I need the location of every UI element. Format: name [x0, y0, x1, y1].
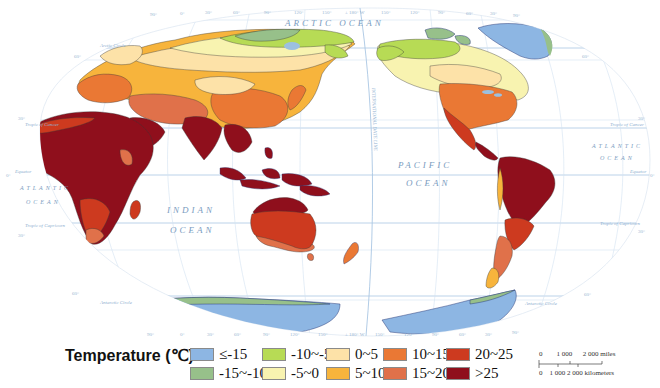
svg-text:150°: 150°: [318, 332, 328, 337]
legend-swatch: [190, 348, 214, 361]
legend-item-0-5: 0~5: [326, 346, 378, 362]
legend-label: 15~20: [412, 365, 450, 382]
legend-label: 20~25: [475, 346, 513, 363]
svg-text:Arctic Circle: Arctic Circle: [99, 43, 126, 48]
svg-text:60°: 60°: [582, 54, 589, 59]
scale-km-label: 0 1 000 2 000 kilometers: [539, 369, 614, 377]
legend-swatch: [326, 367, 350, 380]
svg-text:120°: 120°: [410, 10, 420, 15]
svg-text:120°: 120°: [290, 332, 300, 337]
svg-text:60°: 60°: [72, 291, 79, 296]
svg-text:ATLANTIC: ATLANTIC: [591, 143, 643, 149]
legend-swatch: [326, 348, 350, 361]
legend-swatch: [446, 367, 470, 380]
legend-item-20-25: 20~25: [446, 346, 513, 362]
svg-text:150°: 150°: [381, 10, 391, 15]
legend-item-minus5-0: -5~0: [262, 365, 319, 381]
svg-text:30°: 30°: [638, 229, 645, 234]
svg-text:Tropic of Capricorn: Tropic of Capricorn: [600, 221, 641, 226]
svg-text:60°: 60°: [234, 332, 241, 337]
legend-item-10-15: 10~15: [383, 346, 450, 362]
legend-swatch: [446, 348, 470, 361]
legend-label: 0~5: [355, 346, 378, 363]
svg-text:0°: 0°: [180, 11, 185, 16]
svg-text:30°: 30°: [205, 10, 212, 15]
svg-text:90°: 90°: [513, 13, 520, 18]
svg-text:60°: 60°: [584, 292, 591, 297]
svg-text:± 180° W: ± 180° W: [345, 332, 365, 337]
svg-text:Tropic of Capricorn: Tropic of Capricorn: [25, 223, 66, 228]
svg-text:OCEAN: OCEAN: [406, 178, 451, 188]
svg-text:60°: 60°: [233, 10, 240, 15]
legend-item-minus10-minus5: -10~-5: [262, 346, 332, 362]
legend-swatch: [383, 367, 407, 380]
legend-swatch: [262, 367, 286, 380]
legend-swatch: [383, 348, 407, 361]
scale-miles-label: 0 1 000 2 000 miles: [539, 350, 615, 358]
svg-text:90°: 90°: [512, 330, 519, 335]
legend-label: 10~15: [412, 346, 450, 363]
svg-text:30°: 30°: [485, 332, 492, 337]
svg-text:30°: 30°: [638, 116, 645, 121]
legend-swatch: [262, 348, 286, 361]
svg-text:30°: 30°: [18, 233, 25, 238]
svg-text:Tropic of Cancer: Tropic of Cancer: [610, 122, 644, 127]
svg-text:Tropic of Cancer: Tropic of Cancer: [25, 122, 59, 127]
svg-text:120°: 120°: [404, 332, 414, 337]
svg-text:PACIFIC: PACIFIC: [397, 160, 452, 170]
legend-item-le-minus15: ≤-15: [190, 346, 247, 362]
svg-text:30°: 30°: [490, 11, 497, 16]
legend-item-15-20: 15~20: [383, 365, 450, 381]
scale-bar: 0 1 000 2 000 miles 0 1 000 2 000 kilome…: [536, 350, 660, 382]
svg-text:Equator: Equator: [629, 169, 646, 174]
svg-text:60°: 60°: [74, 54, 81, 59]
svg-text:60°: 60°: [466, 11, 473, 16]
legend-label: 5~10: [355, 365, 386, 382]
legend-label: -5~0: [291, 365, 319, 382]
svg-text:Equator: Equator: [14, 169, 31, 174]
svg-text:0°: 0°: [6, 173, 11, 178]
legend-item-minus15-minus10: -15~-10: [190, 365, 267, 381]
svg-text:0°: 0°: [650, 173, 655, 178]
legend-swatch: [190, 367, 214, 380]
svg-text:90°: 90°: [438, 10, 445, 15]
svg-text:30°: 30°: [18, 116, 25, 121]
svg-text:30°: 30°: [207, 332, 214, 337]
world-temperature-map: 90° 0° 30° 60° 90° 120° 150° ± 180° W 15…: [0, 0, 660, 340]
svg-text:0°: 0°: [180, 332, 185, 337]
svg-text:Antarctic Circle: Antarctic Circle: [99, 300, 133, 305]
svg-text:90°: 90°: [150, 12, 157, 17]
svg-text:± 180° W: ± 180° W: [345, 10, 365, 15]
svg-text:90°: 90°: [264, 10, 271, 15]
svg-text:OCEAN: OCEAN: [26, 199, 61, 205]
legend-label: >25: [475, 365, 498, 382]
svg-text:150°: 150°: [322, 10, 332, 15]
svg-text:60°: 60°: [459, 332, 466, 337]
legend-item-gt25: >25: [446, 365, 498, 381]
legend-title: Temperature (℃): [65, 346, 194, 365]
legend-label: -15~-10: [219, 365, 267, 382]
svg-text:Antarctic Circle: Antarctic Circle: [524, 301, 558, 306]
svg-text:120°: 120°: [294, 10, 304, 15]
svg-text:150°: 150°: [375, 332, 385, 337]
svg-text:90°: 90°: [432, 332, 439, 337]
legend-item-5-10: 5~10: [326, 365, 386, 381]
svg-text:INDIAN: INDIAN: [166, 205, 215, 215]
svg-text:ARCTIC OCEAN: ARCTIC OCEAN: [284, 18, 384, 28]
svg-text:OCEAN: OCEAN: [170, 225, 215, 235]
svg-text:90°: 90°: [263, 332, 270, 337]
svg-text:OCEAN: OCEAN: [600, 155, 635, 161]
svg-text:90°: 90°: [147, 332, 154, 337]
legend-label: ≤-15: [219, 346, 247, 363]
svg-text:ATLANTIC: ATLANTIC: [19, 185, 71, 191]
